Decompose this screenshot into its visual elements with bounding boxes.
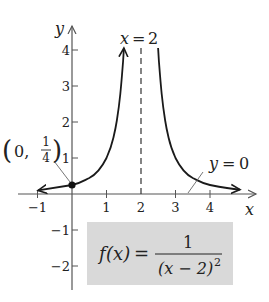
svg-text:1: 1 bbox=[42, 135, 50, 149]
x-tick-label: 3 bbox=[171, 200, 179, 215]
y-ticks bbox=[72, 50, 78, 266]
svg-text:y: y bbox=[208, 154, 219, 173]
x-tick-label: −1 bbox=[28, 200, 47, 215]
x-tick-label: 2 bbox=[137, 200, 145, 215]
y-tick-label: 1 bbox=[62, 151, 70, 166]
y-tick-label: 2 bbox=[62, 115, 70, 130]
x-tick-label: 4 bbox=[206, 200, 214, 215]
svg-text:2: 2 bbox=[148, 29, 158, 48]
svg-text:0: 0 bbox=[239, 154, 249, 173]
svg-text:x: x bbox=[120, 29, 129, 48]
point-marker bbox=[68, 181, 75, 188]
svg-text:(: ( bbox=[2, 135, 12, 165]
svg-text:=: = bbox=[222, 154, 235, 173]
svg-text:=: = bbox=[132, 29, 145, 48]
x-tick-label: 1 bbox=[102, 200, 110, 215]
svg-text:2: 2 bbox=[214, 256, 221, 269]
y-tick-label: −2 bbox=[51, 259, 70, 274]
svg-text:4: 4 bbox=[42, 151, 50, 165]
point-label: ( 0, 1 4 ) bbox=[2, 135, 62, 165]
y-tick-label: −1 bbox=[51, 223, 70, 238]
vertical-asymptote-label: x = 2 bbox=[120, 29, 158, 48]
x-axis-label: x bbox=[245, 200, 254, 219]
curve-left-branch bbox=[72, 48, 124, 185]
svg-text:(x): (x) bbox=[106, 243, 130, 264]
y-axis-label: y bbox=[54, 19, 65, 38]
curve-left-tail bbox=[38, 185, 72, 190]
horizontal-asymptote-label: y = 0 bbox=[208, 154, 249, 173]
function-graph: y x −1 1 2 3 4 4 3 2 1 −1 −2 x = 2 y = 0… bbox=[0, 0, 269, 302]
y-tick-label: 4 bbox=[62, 43, 70, 58]
svg-text:0,: 0, bbox=[14, 142, 29, 161]
svg-text:1: 1 bbox=[183, 233, 193, 252]
y-tick-label: 3 bbox=[62, 79, 70, 94]
svg-text:(x − 2): (x − 2) bbox=[158, 259, 213, 278]
svg-text:): ) bbox=[52, 135, 62, 165]
svg-text:=: = bbox=[134, 243, 149, 264]
